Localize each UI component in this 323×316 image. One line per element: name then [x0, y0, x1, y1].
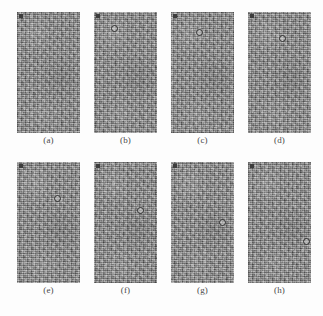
shading-overlay [94, 162, 157, 283]
corner-marker-icon [96, 14, 100, 18]
panel-a-image [17, 12, 80, 133]
target-circle-marker [219, 219, 226, 226]
corner-marker-icon [19, 164, 23, 168]
target-circle-marker [196, 29, 203, 36]
panel-c-image [171, 12, 234, 133]
shading-overlay [248, 12, 311, 133]
panel-c: (c) [171, 12, 234, 159]
panel-f: (f) [94, 162, 157, 309]
corner-marker-icon [173, 14, 177, 18]
panel-a: (a) [17, 12, 80, 159]
panel-c-caption: (c) [171, 135, 234, 145]
panel-h-caption: (h) [248, 285, 311, 295]
panel-h-image [248, 162, 311, 283]
panel-f-image [94, 162, 157, 283]
panel-h: (h) [248, 162, 311, 309]
target-circle-marker [279, 35, 286, 42]
corner-marker-icon [250, 164, 254, 168]
panel-row-top: (a) (b) (c) [0, 12, 323, 159]
target-circle-marker [303, 238, 310, 245]
figure-panel-grid: (a) (b) (c) [0, 0, 323, 316]
shading-overlay [17, 162, 80, 283]
panel-a-caption: (a) [17, 135, 80, 145]
panel-row-bottom: (e) (f) (g) [0, 162, 323, 309]
shading-overlay [94, 12, 157, 133]
panel-e: (e) [17, 162, 80, 309]
shading-overlay [17, 12, 80, 133]
panel-b: (b) [94, 12, 157, 159]
corner-marker-icon [173, 164, 177, 168]
panel-b-image [94, 12, 157, 133]
panel-d-image [248, 12, 311, 133]
panel-g-caption: (g) [171, 285, 234, 295]
corner-marker-icon [19, 14, 23, 18]
corner-marker-icon [250, 14, 254, 18]
panel-g-image [171, 162, 234, 283]
panel-e-image [17, 162, 80, 283]
target-circle-marker [137, 207, 144, 214]
target-circle-marker [54, 195, 61, 202]
panel-b-caption: (b) [94, 135, 157, 145]
panel-d-caption: (d) [248, 135, 311, 145]
panel-g: (g) [171, 162, 234, 309]
panel-e-caption: (e) [17, 285, 80, 295]
panel-d: (d) [248, 12, 311, 159]
shading-overlay [248, 162, 311, 283]
panel-f-caption: (f) [94, 285, 157, 295]
corner-marker-icon [96, 164, 100, 168]
